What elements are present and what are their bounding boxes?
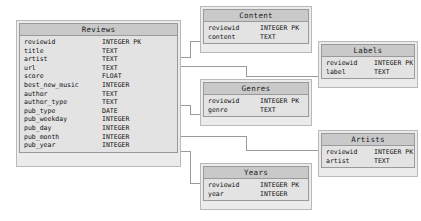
field-name: pub_weekday: [20, 115, 102, 124]
field-name: best_new_music: [20, 81, 102, 90]
connector-reviews-artists: [181, 136, 318, 150]
field-name: author_type: [20, 98, 102, 107]
field-type: DATE: [102, 107, 118, 116]
field-type: TEXT: [102, 64, 118, 73]
entity-years[interactable]: Years reviewid INTEGER PK year INTEGER: [200, 163, 312, 210]
field-type: INTEGER PK: [260, 181, 299, 190]
entity-genres-fields: reviewid INTEGER PK genre TEXT: [203, 95, 309, 117]
field-type: INTEGER: [102, 115, 129, 124]
table-row: reviewid INTEGER PK: [322, 59, 414, 68]
field-name: content: [204, 33, 260, 42]
field-type: TEXT: [102, 98, 118, 107]
field-name: reviewid: [204, 181, 260, 190]
field-name: pub_year: [20, 141, 102, 150]
table-row: label TEXT: [322, 68, 414, 77]
field-type: TEXT: [102, 47, 118, 56]
table-row: author_type TEXT: [20, 98, 177, 107]
field-type: TEXT: [260, 33, 276, 42]
entity-genres[interactable]: Genres reviewid INTEGER PK genre TEXT: [200, 79, 312, 126]
table-row: reviewid INTEGER PK: [204, 97, 308, 106]
field-name: reviewid: [322, 148, 374, 157]
table-row: reviewid INTEGER PK: [322, 148, 414, 157]
field-type: TEXT: [102, 55, 118, 64]
entity-labels-title: Labels: [321, 44, 415, 57]
field-name: year: [204, 190, 260, 199]
table-row: author TEXT: [20, 90, 177, 99]
field-type: INTEGER: [102, 141, 129, 150]
field-name: title: [20, 47, 102, 56]
table-row: year INTEGER: [204, 190, 308, 199]
table-row: reviewid INTEGER PK: [204, 181, 308, 190]
field-type: TEXT: [260, 106, 276, 115]
entity-artists-title: Artists: [321, 133, 415, 146]
field-name: reviewid: [204, 24, 260, 33]
connector-reviews-labels: [181, 66, 318, 76]
er-diagram-canvas: Reviews reviewid INTEGER PK title TEXT a…: [0, 0, 421, 221]
field-type: INTEGER PK: [102, 38, 141, 47]
table-row: score FLOAT: [20, 72, 177, 81]
table-row: pub_year INTEGER: [20, 141, 177, 150]
field-name: reviewid: [322, 59, 374, 68]
entity-years-fields: reviewid INTEGER PK year INTEGER: [203, 179, 309, 201]
connector-reviews-years: [181, 151, 200, 183]
field-name: pub_type: [20, 107, 102, 116]
entity-content[interactable]: Content reviewid INTEGER PK content TEXT: [200, 6, 312, 53]
entity-years-title: Years: [203, 166, 309, 179]
entity-reviews-fields: reviewid INTEGER PK title TEXT artist TE…: [19, 36, 178, 153]
table-row: pub_weekday INTEGER: [20, 115, 177, 124]
field-name: pub_day: [20, 124, 102, 133]
field-type: INTEGER: [260, 190, 287, 199]
connector-reviews-genres: [181, 105, 200, 114]
field-name: reviewid: [20, 38, 102, 47]
table-row: pub_day INTEGER: [20, 124, 177, 133]
entity-labels-fields: reviewid INTEGER PK label TEXT: [321, 57, 415, 79]
entity-content-title: Content: [203, 9, 309, 22]
field-type: INTEGER: [102, 81, 129, 90]
table-row: url TEXT: [20, 64, 177, 73]
entity-genres-title: Genres: [203, 82, 309, 95]
field-name: url: [20, 64, 102, 73]
entity-artists-fields: reviewid INTEGER PK artist TEXT: [321, 146, 415, 168]
table-row: pub_type DATE: [20, 107, 177, 116]
connector-reviews-content: [181, 41, 200, 57]
field-type: TEXT: [374, 157, 390, 166]
table-row: genre TEXT: [204, 106, 308, 115]
entity-reviews-title: Reviews: [19, 23, 178, 36]
table-row: reviewid INTEGER PK: [20, 38, 177, 47]
field-name: reviewid: [204, 97, 260, 106]
field-type: INTEGER PK: [260, 97, 299, 106]
field-name: pub_month: [20, 133, 102, 142]
field-type: TEXT: [102, 90, 118, 99]
table-row: title TEXT: [20, 47, 177, 56]
table-row: reviewid INTEGER PK: [204, 24, 308, 33]
field-type: INTEGER PK: [260, 24, 299, 33]
entity-artists[interactable]: Artists reviewid INTEGER PK artist TEXT: [318, 130, 418, 177]
field-name: genre: [204, 106, 260, 115]
table-row: content TEXT: [204, 33, 308, 42]
entity-content-fields: reviewid INTEGER PK content TEXT: [203, 22, 309, 44]
entity-reviews[interactable]: Reviews reviewid INTEGER PK title TEXT a…: [16, 20, 181, 167]
table-row: best_new_music INTEGER: [20, 81, 177, 90]
entity-labels[interactable]: Labels reviewid INTEGER PK label TEXT: [318, 41, 418, 88]
field-type: INTEGER: [102, 124, 129, 133]
field-name: artist: [322, 157, 374, 166]
table-row: pub_month INTEGER: [20, 133, 177, 142]
field-type: INTEGER: [102, 133, 129, 142]
field-name: author: [20, 90, 102, 99]
field-type: FLOAT: [102, 72, 122, 81]
table-row: artist TEXT: [322, 157, 414, 166]
field-name: label: [322, 68, 374, 77]
field-name: score: [20, 72, 102, 81]
field-type: INTEGER PK: [374, 148, 413, 157]
field-type: INTEGER PK: [374, 59, 413, 68]
field-type: TEXT: [374, 68, 390, 77]
field-name: artist: [20, 55, 102, 64]
table-row: artist TEXT: [20, 55, 177, 64]
